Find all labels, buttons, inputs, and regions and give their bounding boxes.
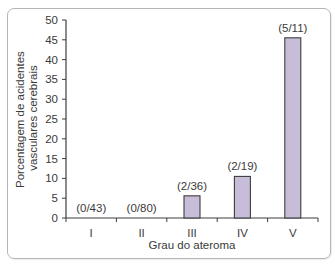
x-tick-label: IV bbox=[237, 227, 248, 239]
y-tick-label: 20 bbox=[45, 133, 58, 145]
y-tick-label: 45 bbox=[45, 34, 58, 46]
x-tick-label: III bbox=[187, 227, 197, 239]
y-tick-label: 15 bbox=[45, 153, 58, 165]
y-tick-label: 30 bbox=[45, 93, 58, 105]
y-axis-label: Porcentagem de acidentes vasculares cere… bbox=[14, 48, 39, 188]
y-tick-label: 50 bbox=[45, 14, 58, 26]
y-tick-label: 40 bbox=[45, 54, 58, 66]
bar-annotation: (2/19) bbox=[227, 160, 257, 172]
y-tick-label: 25 bbox=[45, 113, 58, 125]
bar-annotation: (5/11) bbox=[278, 22, 307, 34]
bar-annotation: (2/36) bbox=[177, 180, 207, 192]
bar-IV bbox=[234, 176, 250, 218]
y-tick-label: 10 bbox=[45, 172, 58, 184]
x-tick-label: I bbox=[90, 227, 93, 239]
bar-annotation: (0/80) bbox=[127, 202, 157, 214]
x-axis-label: Grau do ateroma bbox=[149, 239, 237, 251]
bar-annotation: (0/43) bbox=[76, 202, 106, 214]
x-tick-label: II bbox=[138, 227, 144, 239]
y-tick-label: 0 bbox=[52, 212, 58, 224]
x-axis: IIIIIIIVV bbox=[66, 218, 318, 239]
y-axis: 05101520253035404550 bbox=[45, 14, 66, 224]
bar-III bbox=[184, 196, 200, 218]
bar-V bbox=[285, 38, 301, 218]
y-tick-label: 35 bbox=[45, 73, 58, 85]
y-tick-label: 5 bbox=[52, 192, 58, 204]
bar-annotations: (0/43)(0/80)(2/36)(2/19)(5/11) bbox=[76, 22, 307, 214]
bar-chart: 05101520253035404550 IIIIIIIVV (0/43)(0/… bbox=[0, 0, 335, 267]
x-tick-label: V bbox=[289, 227, 297, 239]
